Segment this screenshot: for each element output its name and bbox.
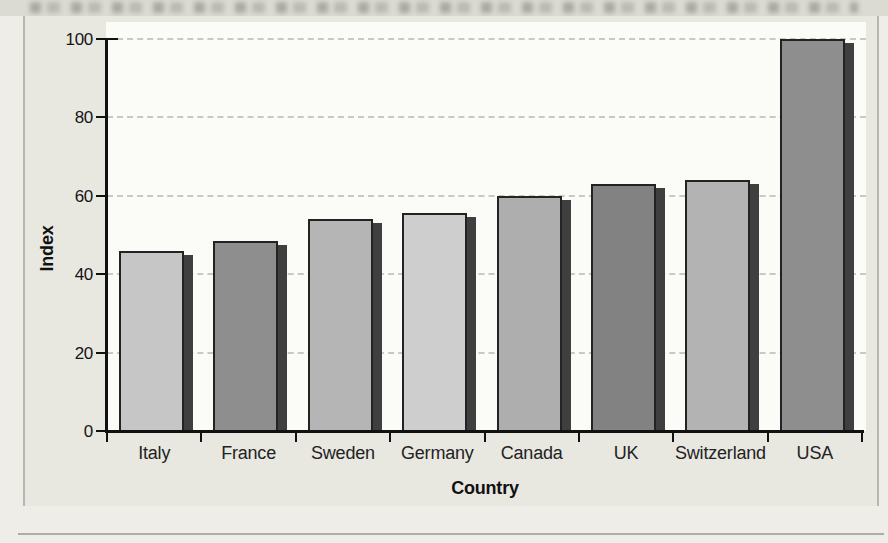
bar-shadow (373, 223, 382, 431)
gridline-80 (107, 116, 866, 118)
x-tick-8 (861, 433, 863, 442)
bar-shadow (845, 43, 854, 431)
x-category-label-switzerland: Switzerland (673, 443, 767, 464)
page-rule-divider (18, 533, 884, 535)
x-tick-0 (106, 433, 108, 442)
y-tick-60 (96, 195, 105, 197)
bar (308, 219, 373, 431)
x-tick-5 (578, 433, 580, 442)
bar-shadow (750, 184, 759, 431)
x-category-label-germany: Germany (390, 443, 484, 464)
x-tick-7 (767, 433, 769, 442)
x-tick-3 (389, 433, 391, 442)
y-tick-label-100: 100 (47, 30, 93, 50)
y-tick-label-20: 20 (47, 344, 93, 364)
y-axis-top-cap (105, 38, 118, 40)
bar (119, 251, 184, 431)
x-category-label-uk: UK (579, 443, 673, 464)
x-tick-6 (672, 433, 674, 442)
y-tick-80 (96, 116, 105, 118)
scanned-page: 020406080100ItalyFranceSwedenGermanyCana… (0, 0, 888, 543)
bar-shadow (278, 245, 287, 431)
x-category-label-france: France (201, 443, 295, 464)
x-category-label-sweden: Sweden (296, 443, 390, 464)
bar (402, 213, 467, 431)
x-category-label-canada: Canada (485, 443, 579, 464)
y-tick-20 (96, 352, 105, 354)
x-axis-title: Country (108, 478, 862, 499)
bar (591, 184, 656, 431)
x-tick-2 (295, 433, 297, 442)
y-tick-100 (96, 38, 105, 40)
bar-shadow (467, 217, 476, 431)
bar (685, 180, 750, 431)
x-tick-1 (200, 433, 202, 442)
y-tick-label-0: 0 (47, 422, 93, 442)
x-tick-4 (484, 433, 486, 442)
page-bleed-text (0, 0, 888, 16)
bar (780, 39, 845, 431)
bar-shadow (562, 200, 571, 431)
y-tick-40 (96, 273, 105, 275)
bar-shadow (184, 255, 193, 431)
illegible-text-remnant (30, 2, 858, 13)
gridline-100 (107, 38, 866, 40)
y-tick-label-80: 80 (47, 108, 93, 128)
y-axis (105, 38, 108, 433)
x-category-label-italy: Italy (107, 443, 201, 464)
y-tick-0 (96, 430, 105, 432)
bar (497, 196, 562, 431)
x-category-label-usa: USA (768, 443, 862, 464)
y-axis-title: Index (37, 194, 58, 304)
bar (213, 241, 278, 431)
bar-shadow (656, 188, 665, 431)
